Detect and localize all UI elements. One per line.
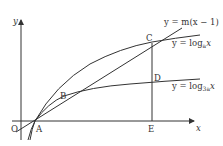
x-axis-label: x — [196, 123, 201, 133]
point-d-label: D — [154, 73, 161, 83]
point-e-label: E — [148, 124, 154, 134]
point-c-label: C — [146, 33, 153, 43]
point-b-label: B — [60, 91, 66, 101]
y-axis-label: y — [12, 16, 18, 26]
origin-label: O — [11, 124, 18, 134]
log-3a-equation-label: y = log3ax — [171, 81, 215, 92]
point-a-label: A — [35, 124, 43, 134]
line-equation-label: y = m(x − 1) — [163, 17, 219, 27]
log-a-equation-label: y = logax — [171, 38, 211, 49]
diagram: y x O A B C D E y = m(x − 1) y = logax y… — [0, 0, 223, 146]
